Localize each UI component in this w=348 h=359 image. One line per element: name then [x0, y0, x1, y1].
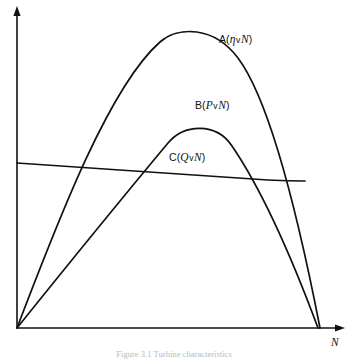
axes-group	[13, 6, 345, 332]
label-c-versus: v	[189, 153, 194, 163]
plot-canvas	[0, 0, 348, 359]
label-b-variable-n: N	[218, 99, 226, 111]
label-b-symbol-p: P	[206, 99, 213, 111]
label-b-suffix: )	[226, 99, 230, 111]
label-a-suffix: )	[249, 33, 253, 45]
figure-container: A(ηvN) B(PvN) C(QvN) N Figure 3.1 Turbin…	[0, 0, 348, 359]
label-a-versus: v	[236, 35, 241, 45]
label-b-prefix: B(	[195, 99, 206, 111]
x-axis-arrowhead	[335, 324, 345, 331]
curve-b-power	[17, 128, 318, 328]
label-c-suffix: )	[202, 151, 206, 163]
y-axis-arrowhead	[13, 6, 20, 16]
x-axis-label: N	[331, 336, 339, 348]
curves-group	[17, 31, 320, 328]
label-c-prefix: C(	[169, 151, 180, 163]
label-a-variable-n: N	[241, 33, 249, 45]
curve-label-c: C(QvN)	[169, 151, 205, 163]
label-c-variable-n: N	[194, 151, 202, 163]
curve-label-a: A(ηvN)	[219, 33, 252, 45]
curve-label-b: B(PvN)	[195, 99, 230, 111]
figure-caption: Figure 3.1 Turbine characteristics	[0, 350, 348, 359]
label-c-symbol-q: Q	[180, 151, 188, 163]
curve-c-flow	[17, 163, 305, 181]
label-a-prefix: A(	[219, 33, 230, 45]
label-a-symbol-eta: η	[230, 33, 236, 45]
label-b-versus: v	[213, 101, 218, 111]
